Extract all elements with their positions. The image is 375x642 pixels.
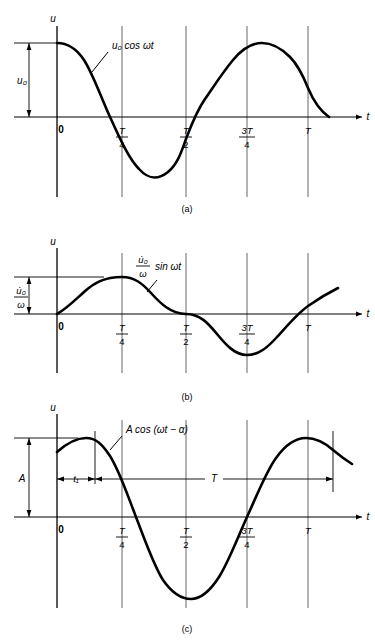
amplitude-arrow-up-c [27, 438, 32, 445]
period-arrow-right-c [326, 477, 333, 482]
t-axis-arrow-a [356, 115, 362, 120]
t-axis-label-b: t [367, 308, 371, 319]
origin-label-a: 0 [58, 124, 64, 135]
curve-label-den-b: ω [139, 268, 147, 279]
period-arrow-left-c [95, 477, 102, 482]
xtick-t4-den-c: 4 [119, 539, 124, 550]
curve-cos-a [57, 43, 329, 178]
amplitude-arrow-down-c [27, 510, 32, 517]
xtick-3t4-num-c: 3T [241, 525, 253, 536]
xtick-t2-num-b: T [183, 322, 190, 333]
xtick-t-c: T [305, 525, 312, 536]
xtick-t-a: T [305, 125, 312, 136]
xtick-3t4-num-a: 3T [241, 125, 253, 136]
leader-line-b [147, 280, 157, 292]
xtick-t4-num-a: T [119, 125, 126, 136]
t-axis-label-a: t [367, 111, 371, 122]
leader-line-a [92, 52, 108, 72]
xtick-3t4-num-b: 3T [241, 322, 253, 333]
leader-line-c [110, 436, 122, 450]
xtick-t-b: T [305, 322, 312, 333]
t-axis-arrow-c [356, 515, 362, 520]
origin-label-b: 0 [58, 321, 64, 332]
u-axis-label-b: u [50, 236, 56, 247]
curve-label-c: A cos (ωt − α) [125, 424, 188, 435]
xtick-labels-c: T 4 T 2 3T 4 T [116, 525, 312, 550]
xtick-t2-den-a: 2 [183, 139, 188, 150]
curve-label-num-b: u̇₀ [138, 254, 147, 265]
xtick-labels-b: T 4 T 2 3T 4 T [116, 322, 312, 347]
amplitude-arrow-down-b [27, 307, 32, 314]
xtick-3t4-den-a: 4 [244, 139, 249, 150]
gridlines-c [122, 420, 308, 608]
panel-caption-c: (c) [182, 624, 193, 634]
t-axis-arrow-b [356, 312, 362, 317]
u-axis-label-a: u [50, 13, 56, 24]
period-label-text-c: T [211, 473, 218, 484]
xtick-t4-den-b: 4 [119, 336, 124, 347]
panel-b: u t 0 u̇₀ ω u̇₀ ω sin ωt T 4 T [0, 215, 375, 405]
panel-c-plot: u t 0 A t₁ T T T 4 T 2 3T 4 T (c) A [0, 400, 375, 642]
amplitude-arrow-down-a [27, 110, 32, 117]
xtick-t4-num-c: T [119, 525, 126, 536]
amplitude-label-a: u₀ [17, 75, 27, 86]
panel-c: u t 0 A t₁ T T T 4 T 2 3T 4 T (c) A [0, 400, 375, 642]
curve-label-a: u₀ cos ωt [112, 40, 155, 51]
amplitude-arrow-up-b [27, 277, 32, 284]
u-axis-label-c: u [50, 402, 56, 413]
panel-caption-a: (a) [182, 204, 193, 214]
lag-arrow-left-c [57, 477, 64, 482]
xtick-3t4-den-c: 4 [244, 539, 249, 550]
curve-sin-b [57, 277, 338, 355]
panel-a: u t 0 u₀ u₀ cos ωt T 4 T 2 3T 4 T (a) [0, 0, 375, 215]
amplitude-arrow-up-a [27, 43, 32, 50]
amplitude-label-num-b: u̇₀ [16, 285, 25, 296]
xtick-3t4-den-b: 4 [244, 336, 249, 347]
amplitude-label-den-b: ω [17, 299, 25, 310]
panel-a-plot: u t 0 u₀ u₀ cos ωt T 4 T 2 3T 4 T (a) [0, 0, 375, 215]
lag-arrow-right-c [88, 477, 95, 482]
panel-b-plot: u t 0 u̇₀ ω u̇₀ ω sin ωt T 4 T [0, 215, 375, 405]
t-axis-label-c: t [367, 511, 371, 522]
gridlines-a [122, 26, 308, 197]
origin-label-c: 0 [58, 524, 64, 535]
xtick-t4-den-a: 4 [119, 139, 124, 150]
xtick-t2-den-b: 2 [183, 336, 188, 347]
amplitude-label-b: u̇₀ ω [14, 285, 28, 310]
lag-label-c: t₁ [73, 473, 79, 484]
amplitude-label-c: A [18, 473, 26, 484]
xtick-labels-a: T 4 T 2 3T 4 T [116, 125, 312, 150]
curve-label-rest-b: sin ωt [155, 261, 182, 272]
xtick-t2-num-c: T [183, 525, 190, 536]
xtick-t4-num-b: T [119, 322, 126, 333]
xtick-t2-den-c: 2 [183, 539, 188, 550]
figure-container: u t 0 u₀ u₀ cos ωt T 4 T 2 3T 4 T (a) [0, 0, 375, 642]
gridlines-b [122, 253, 308, 373]
curve-label-b: u̇₀ ω sin ωt [136, 254, 182, 279]
